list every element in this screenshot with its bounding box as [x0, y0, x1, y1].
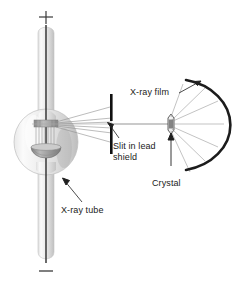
xray-film-label: X-ray film — [130, 87, 169, 97]
crystal-label: Crystal — [152, 178, 181, 188]
x-ray-film-arc — [186, 80, 230, 170]
diffracted-rays — [171, 84, 224, 172]
x-ray-tube-assembly — [14, 11, 78, 271]
xray-tube-arrowhead — [63, 178, 70, 185]
xray-diffraction-figure: X-ray film Slit in lead shield Crystal X… — [0, 0, 240, 287]
slit-label-line2: shield — [113, 152, 137, 162]
crystal-arrowhead — [168, 133, 174, 140]
anode-target — [34, 120, 58, 127]
lead-shield-upper-bar — [110, 94, 113, 121]
slit-label-line1: Slit in lead — [113, 141, 156, 151]
xray-tube-label: X-ray tube — [61, 205, 104, 215]
figure-canvas: X-ray film Slit in lead shield Crystal X… — [0, 0, 240, 287]
